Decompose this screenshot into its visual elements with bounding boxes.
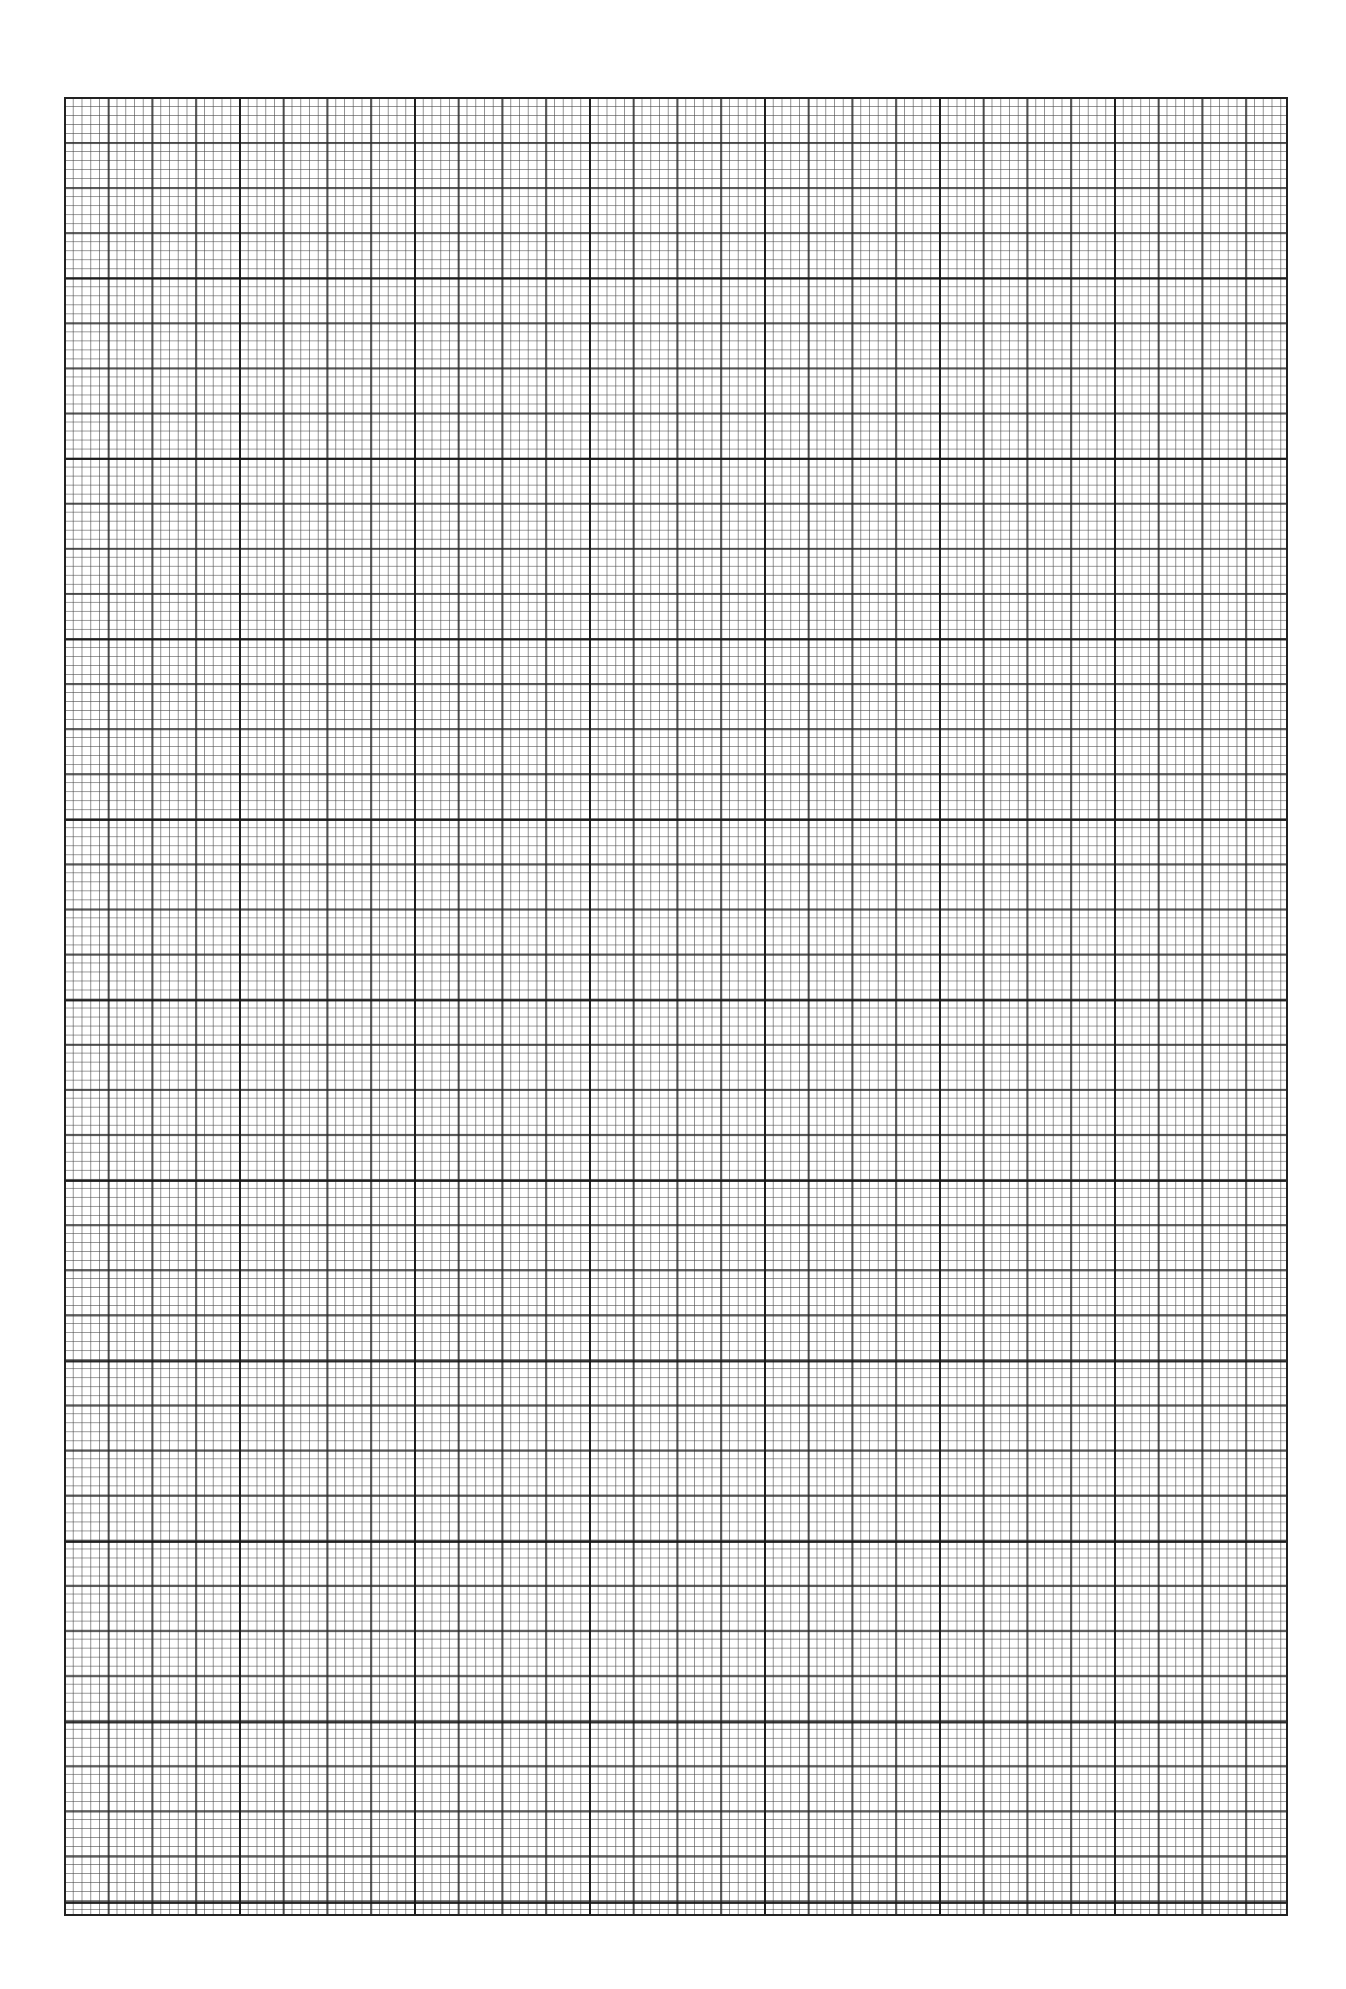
graph-paper-grid [64,97,1288,1916]
